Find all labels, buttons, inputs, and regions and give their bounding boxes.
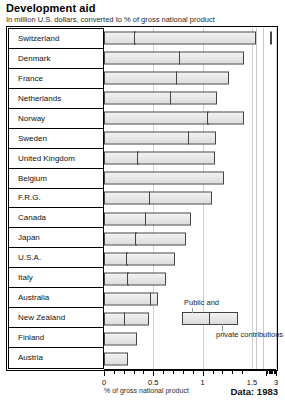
bar-segment-private — [188, 132, 217, 145]
x-axis-tick — [232, 370, 233, 374]
country-label-column: SwitzerlandDenmarkFranceNetherlandsNorwa… — [8, 28, 104, 369]
country-label-row: U.S.A. — [9, 248, 103, 268]
bar-row — [104, 68, 276, 88]
chart-root: Development aid In million U.S. dollars,… — [0, 0, 285, 404]
country-label-row: France — [9, 69, 103, 89]
bar-segment-public — [104, 352, 128, 365]
bar-row — [104, 128, 276, 148]
bar-segment-private — [207, 112, 244, 125]
bar-segment-public — [104, 312, 125, 325]
country-label: Denmark — [18, 54, 50, 63]
x-axis-tick — [114, 370, 115, 374]
bar-row — [104, 229, 276, 249]
bar-segment-public — [104, 292, 151, 305]
bar-segment-private — [127, 272, 166, 285]
country-label: Belgium — [18, 174, 47, 183]
bar-segment-private — [179, 52, 244, 65]
x-axis-tick — [193, 370, 194, 374]
bar-row — [104, 289, 276, 309]
country-label: Italy — [18, 273, 33, 282]
bar-row — [104, 269, 276, 289]
country-label: Switzerland — [18, 34, 59, 43]
bar-segment-public — [104, 332, 137, 345]
country-label-row: New Zealand — [9, 308, 103, 328]
bar-segment-private — [134, 32, 256, 45]
country-label: Austria — [18, 353, 43, 362]
bar-segment-private — [149, 192, 211, 205]
bar-segment-private — [126, 252, 175, 265]
gridline — [276, 28, 277, 369]
bar-row — [104, 309, 276, 329]
bar-segment-public — [104, 92, 171, 105]
country-label-row: Australia — [9, 288, 103, 308]
x-axis-tick-label: 1.5 — [247, 378, 257, 387]
x-axis-tick — [134, 370, 135, 374]
x-axis-tick — [222, 370, 223, 374]
country-label-row: Italy — [9, 268, 103, 288]
bar-segment-public — [104, 232, 137, 245]
x-axis-tick-label: 3 — [274, 378, 278, 387]
bar-row — [104, 349, 276, 369]
country-label: United Kingdom — [18, 154, 75, 163]
country-label: Netherlands — [18, 94, 61, 103]
x-axis-tick — [163, 370, 164, 374]
bar-row — [104, 209, 276, 229]
country-label: Sweden — [18, 134, 47, 143]
country-label-row: Canada — [9, 208, 103, 228]
bars-plot-area — [104, 28, 276, 369]
x-axis-tick — [173, 370, 174, 374]
bar-row — [104, 28, 276, 48]
x-axis-tick-label: 1 — [201, 378, 205, 387]
bar-row — [104, 88, 276, 108]
country-label-row: Sweden — [9, 129, 103, 149]
bar-row — [104, 168, 276, 188]
bar-row — [104, 148, 276, 168]
bar-row — [104, 48, 276, 68]
bar-segment-public — [104, 52, 180, 65]
bar-segment-private — [124, 312, 150, 325]
x-axis-tick-label: 0.5 — [148, 378, 158, 387]
x-axis-line — [104, 369, 276, 370]
bar-segment-private — [137, 152, 214, 165]
country-label-row: Switzerland — [9, 29, 103, 49]
bar-segment-private-continued — [270, 32, 272, 45]
x-axis-tick — [124, 370, 125, 374]
country-label-row: Austria — [9, 348, 103, 368]
country-label: F.R.G. — [18, 193, 41, 202]
bar-segment-private — [145, 212, 191, 225]
x-axis: 00.511.53 — [104, 369, 276, 379]
bar-segment-private — [135, 232, 186, 245]
country-label: Australia — [18, 293, 49, 302]
x-axis-tick — [183, 370, 184, 374]
x-axis-tick — [153, 370, 154, 376]
bar-row — [104, 108, 276, 128]
x-axis-tick — [104, 370, 105, 376]
x-axis-tick — [242, 370, 243, 374]
bar-segment-public — [104, 152, 139, 165]
country-label-row: Finland — [9, 328, 103, 348]
x-axis-title: % of gross national product — [104, 387, 189, 394]
country-label: Canada — [18, 213, 46, 222]
bar-segment-private — [170, 92, 218, 105]
bar-segment-public — [104, 192, 150, 205]
country-label: Finland — [18, 333, 44, 342]
country-label: France — [18, 74, 43, 83]
bar-segment-public — [104, 72, 177, 85]
country-label-row: Belgium — [9, 169, 103, 189]
x-axis-tick — [213, 370, 214, 374]
x-axis-tick — [203, 370, 204, 376]
bar-row — [104, 249, 276, 269]
country-label-row: United Kingdom — [9, 149, 103, 169]
bar-segment-private — [176, 72, 229, 85]
bar-segment-public — [104, 272, 129, 285]
country-label-row: Norway — [9, 109, 103, 129]
bar-segment-public — [104, 132, 189, 145]
country-label: New Zealand — [18, 313, 65, 322]
country-label: Norway — [18, 114, 45, 123]
page-title: Development aid — [6, 2, 96, 14]
country-label: U.S.A. — [18, 253, 41, 262]
country-label-row: Denmark — [9, 49, 103, 69]
bar-segment-public — [104, 172, 224, 185]
bar-row — [104, 188, 276, 208]
bar-segment-public — [104, 252, 128, 265]
